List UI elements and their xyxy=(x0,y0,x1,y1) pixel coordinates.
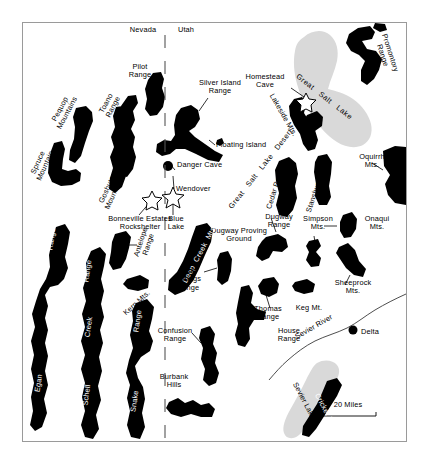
label-burbank-hills: Burbank Hills xyxy=(150,373,198,390)
label-delta: Delta xyxy=(361,328,379,336)
keg-mt-shape xyxy=(292,279,315,294)
label-oquirrh-mts: Oquirrh Mts. xyxy=(348,153,396,170)
label-simpson-mts: Simpson Mts. xyxy=(295,215,341,232)
fish-springs-range-shape xyxy=(217,251,232,285)
label-utah: Utah xyxy=(169,26,203,34)
label-danger-cave: Danger Cave xyxy=(177,161,222,169)
label-thomas-range: Thomas Range xyxy=(245,305,291,322)
silver-island-range-shape xyxy=(156,105,223,162)
burbank-hills-shape xyxy=(166,398,215,417)
label-confusion-range: Confusion Range xyxy=(147,327,203,344)
label-scale-bar: 20 Miles xyxy=(320,401,376,409)
label-keg-mt: Keg Mt. xyxy=(289,304,329,312)
label-onaqui-mts: Onaqui Mts. xyxy=(355,215,399,232)
pequop-mountains-shape xyxy=(69,106,93,163)
label-blue-lake: Blue Lake xyxy=(158,215,194,232)
label-pilot-range: Pilot Range xyxy=(118,63,162,80)
leader-floating-island xyxy=(209,140,215,145)
leader-silver-island xyxy=(199,98,208,111)
sheeprock-mts-shape xyxy=(336,243,366,277)
label-floating-island: Floating Island xyxy=(216,141,266,149)
label-fish-springs-range: Fish Springs Range xyxy=(167,267,209,292)
label-nevada: Nevada xyxy=(123,26,163,34)
antelope-range-shape xyxy=(109,231,131,270)
bonneville-estates-star xyxy=(142,191,162,210)
label-sheeprock-mts: Sheeprock Mts. xyxy=(325,279,381,296)
thomas-range-shape xyxy=(258,277,279,297)
simpson-mts-shape xyxy=(306,239,321,267)
map-frame: Nevada Utah Pilot Range Silver Island Ra… xyxy=(22,22,407,442)
map-root: Nevada Utah Pilot Range Silver Island Ra… xyxy=(0,0,429,466)
label-wendover: Wendover xyxy=(176,185,211,193)
